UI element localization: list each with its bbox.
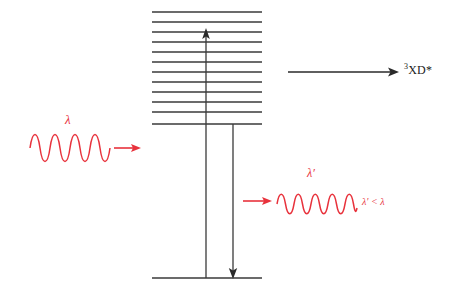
wavelength-inequality-label: λ′ < λ [362, 196, 385, 207]
excited-product-label: 3XD* [404, 62, 432, 78]
emitted-photon-arrow [243, 197, 272, 205]
absorption-up-arrow [202, 28, 210, 278]
product-formation-arrow [288, 68, 399, 77]
diagram-canvas [0, 0, 449, 301]
energy-level-diagram: 3XD* λ λ′ λ′ < λ [0, 0, 449, 301]
energy-level-stack [152, 12, 262, 124]
emitted-photon-wave [277, 194, 357, 214]
emitted-wavelength-label: λ′ [307, 166, 315, 181]
incident-photon-wave [30, 135, 110, 162]
product-formula: XD* [408, 63, 432, 77]
emission-down-arrow [229, 124, 237, 279]
incident-wavelength-label: λ [65, 112, 71, 128]
incident-photon-arrow [114, 144, 141, 152]
